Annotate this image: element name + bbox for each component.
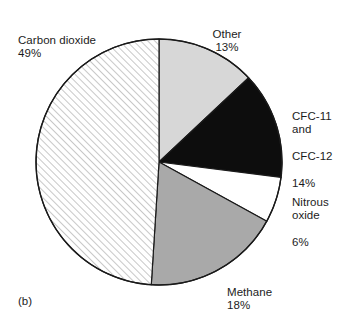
pie-label-other-percent: 13% (196, 41, 258, 55)
pie-label-carbon-dioxide-name: Carbon dioxide (18, 34, 96, 46)
pie-label-cfc-line3: CFC-12 (292, 150, 333, 164)
pie-label-nitrous-oxide-line2: oxide (292, 209, 329, 223)
pie-label-cfc-line2: and (292, 123, 333, 137)
figure-caption: (b) (18, 295, 32, 308)
pie-label-methane-percent: 18% (227, 299, 272, 313)
pie-label-carbon-dioxide: Carbon dioxide 49% (18, 20, 96, 74)
pie-label-nitrous-oxide: Nitrous oxide 6% (292, 182, 329, 263)
pie-label-carbon-dioxide-percent: 49% (18, 47, 96, 61)
pie-slice-group (36, 39, 282, 285)
pie-label-methane-name: Methane (227, 286, 272, 298)
pie-label-nitrous-oxide-percent: 6% (292, 236, 329, 250)
pie-label-methane: Methane 18% (227, 272, 272, 322)
figure-container: Carbon dioxide 49% Other 13% CFC-11 and … (0, 0, 341, 322)
pie-label-other-name: Other (212, 28, 241, 40)
pie-slice-carbon-dioxide (36, 39, 159, 285)
pie-label-cfc-line1: CFC-11 (292, 110, 332, 122)
pie-label-other: Other 13% (196, 14, 258, 68)
pie-label-nitrous-oxide-line1: Nitrous (292, 196, 329, 208)
